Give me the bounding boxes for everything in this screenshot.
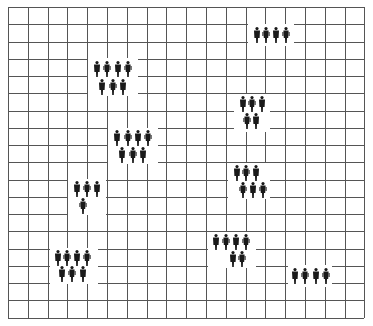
cluster-patches xyxy=(50,24,332,287)
grid-diagram xyxy=(0,0,373,326)
people-clusters xyxy=(55,27,330,284)
